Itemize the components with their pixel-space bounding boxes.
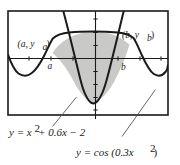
- x-value-a-label: a: [48, 61, 53, 71]
- x-value-b-label: b: [121, 62, 126, 72]
- point-a-label-close: ): [47, 39, 50, 50]
- point-b-label-main: (b, y: [122, 30, 140, 41]
- point-b-label-close: ): [151, 30, 154, 41]
- equation-cosine-lhs: y = cos (0.3x: [75, 146, 134, 159]
- point-a-label-main: (a, y: [18, 39, 36, 50]
- graph-figure: (a, y a ) (b, y b ) a b y = x 2 + 0.6x −…: [0, 0, 180, 165]
- equation-cosine-rhs: ): [154, 146, 158, 159]
- equation-parabola-lhs: y = x: [8, 126, 32, 138]
- equation-parabola-rhs: + 0.6x − 2: [38, 126, 86, 138]
